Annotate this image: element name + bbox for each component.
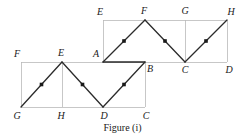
vertex-label-h-upper: H [227, 7, 234, 17]
figure-caption: Figure (i) [0, 122, 245, 134]
marker-DB [122, 83, 126, 87]
vertex-label-c-upper: C [182, 65, 189, 75]
marker-GE [40, 83, 44, 87]
vertex-label-e-lower: E [58, 48, 64, 58]
vertex-label-f-lower: F [14, 49, 20, 59]
vertex-label-d: D [100, 111, 107, 121]
vertex-label-g-upper: G [181, 6, 188, 16]
marker-FC [163, 39, 167, 43]
geometry-diagram [0, 0, 245, 140]
marker-ED [81, 83, 85, 87]
vertex-label-g-lower: G [13, 111, 20, 121]
vertex-label-b: B [147, 64, 153, 74]
vertex-label-c-lower: C [143, 111, 150, 121]
vertex-label-e-upper: E [97, 7, 103, 17]
vertex-label-f-upper: F [141, 6, 147, 16]
marker-CH [204, 39, 208, 43]
marker-AF [122, 39, 126, 43]
vertex-label-d-upper: D [225, 65, 232, 75]
zigzag-path-group [21, 20, 227, 107]
midpoint-markers-group [40, 39, 208, 86]
vertex-label-h-lower: H [57, 111, 64, 121]
vertex-label-a: A [93, 49, 99, 59]
grid-lines-group [21, 20, 227, 107]
figure-container: FGEHDCABEFGHCD Figure (i) [0, 0, 245, 140]
